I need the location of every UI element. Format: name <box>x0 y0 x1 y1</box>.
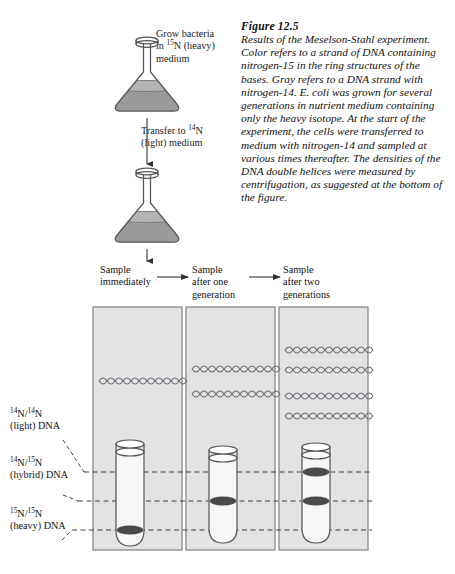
sample-1-line-3: generation <box>192 289 235 300</box>
transfer-line-1-pre: Transfer to <box>141 125 188 136</box>
panel-immediately <box>93 307 182 550</box>
heavy-post: N <box>35 508 42 519</box>
sample-1-line-2: after one <box>192 276 228 287</box>
panel-one-generation <box>186 307 275 550</box>
figure-caption-text: Results of the Meselson-Stahl experiment… <box>241 33 449 205</box>
figure-number: Figure 12.5 <box>241 20 449 32</box>
hybrid-line-2: (hybrid) DNA <box>10 469 68 480</box>
band-heavy-panel-1 <box>117 525 143 534</box>
light-sup-2: 14 <box>27 406 34 415</box>
heavy-line-2: (heavy) DNA <box>10 520 66 531</box>
transfer-line-2: (light) medium <box>141 137 202 148</box>
hybrid-sup-2: 15 <box>27 455 34 464</box>
band-hybrid-panel-2 <box>210 496 236 505</box>
grow-line-2-post: N (heavy) <box>174 40 215 51</box>
band-hybrid-panel-3 <box>303 496 329 505</box>
heavy-sup-2: 15 <box>27 506 34 515</box>
sample-2-line-1: Sample <box>283 264 314 275</box>
dna-label-light: 14N/14N (light) DNA <box>10 408 88 433</box>
hybrid-post: N <box>35 457 42 468</box>
figure-12-5: Figure 12.5 Results of the Meselson-Stah… <box>0 0 455 574</box>
light-post: N <box>35 408 42 419</box>
flask-light-medium <box>107 168 188 257</box>
dna-label-hybrid: 14N/15N (hybrid) DNA <box>10 457 96 482</box>
grow-line-2-pre: in <box>156 40 166 51</box>
light-mid: N/ <box>17 408 27 419</box>
band-light-panel-3 <box>303 467 329 476</box>
helix-group-panel-2 <box>192 366 280 397</box>
n15-superscript: 15 <box>166 38 173 47</box>
sample-label-one-generation: Sample after one generation <box>192 264 264 301</box>
grow-line-1: Grow bacteria <box>156 28 214 39</box>
centrifuge-tube-panel-2 <box>209 446 237 543</box>
hybrid-mid: N/ <box>17 457 27 468</box>
dna-label-heavy: 15N/15N (heavy) DNA <box>10 508 92 533</box>
sample-0-line-2: immediately <box>100 276 151 287</box>
centrifuge-tube-panel-3 <box>302 443 330 543</box>
helix-group-panel-1 <box>99 378 187 384</box>
grow-bacteria-label: Grow bacteria in 15N (heavy) medium <box>156 28 238 65</box>
sample-label-two-generations: Sample after two generations <box>283 264 359 301</box>
helix-group-panel-3 <box>285 347 373 419</box>
leader-hybrid <box>63 495 78 501</box>
sample-1-line-1: Sample <box>192 264 223 275</box>
sample-0-line-1: Sample <box>100 264 131 275</box>
transfer-label: Transfer to 14N (light) medium <box>141 125 236 150</box>
heavy-mid: N/ <box>17 508 27 519</box>
centrifuge-tube-panel-1 <box>116 440 144 546</box>
panel-two-generations <box>279 307 368 550</box>
sample-label-immediately: Sample immediately <box>100 264 170 289</box>
sample-2-line-3: generations <box>283 289 330 300</box>
light-line-2: (light) DNA <box>10 420 60 431</box>
figure-caption-block: Figure 12.5 Results of the Meselson-Stah… <box>241 20 449 205</box>
transfer-line-1-post: N <box>195 125 202 136</box>
sample-2-line-2: after two <box>283 276 320 287</box>
grow-line-3: medium <box>156 53 189 64</box>
